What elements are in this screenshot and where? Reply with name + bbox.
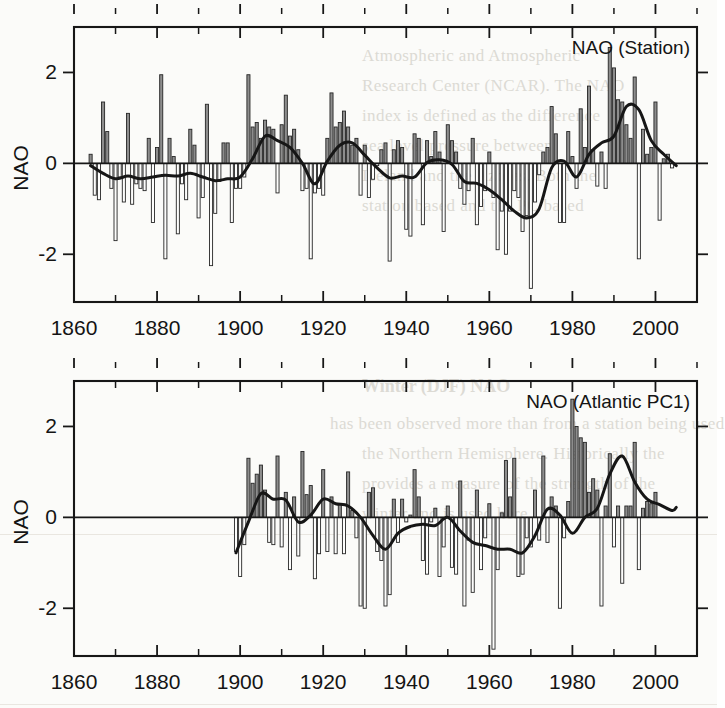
bar: [455, 152, 458, 163]
bar: [525, 517, 528, 537]
y-tick-label: -2: [38, 596, 57, 619]
bar: [546, 517, 549, 542]
bar: [608, 454, 611, 518]
bar: [255, 122, 258, 163]
bar: [654, 102, 657, 163]
bar: [438, 517, 441, 576]
bar: [413, 470, 416, 518]
bar: [409, 163, 412, 236]
bar: [517, 517, 520, 576]
bar: [392, 150, 395, 164]
bar: [646, 501, 649, 517]
bar-series: [89, 47, 674, 288]
bar: [151, 163, 154, 222]
bar: [272, 517, 275, 544]
bar: [268, 127, 271, 163]
bar: [413, 134, 416, 164]
bar: [106, 132, 109, 164]
bar: [197, 163, 200, 218]
bar: [351, 145, 354, 163]
bar: [247, 75, 250, 164]
bar: [293, 129, 296, 163]
bar: [102, 102, 105, 163]
bar: [575, 426, 578, 517]
bar: [276, 163, 279, 193]
bar: [359, 517, 362, 606]
y-tick-label: 2: [45, 60, 57, 83]
bar: [525, 163, 528, 215]
bar: [500, 163, 503, 211]
bar: [160, 75, 163, 164]
bar: [313, 517, 316, 578]
bar: [604, 163, 607, 188]
bar: [193, 145, 196, 163]
bar: [318, 517, 321, 553]
bar: [421, 163, 424, 224]
bar: [567, 501, 570, 517]
bar: [625, 506, 628, 517]
chart-title-nao-atlantic-pc1: NAO (Atlantic PC1): [526, 391, 690, 412]
bar: [567, 132, 570, 164]
bar: [334, 127, 337, 163]
bar: [538, 163, 541, 174]
bar: [272, 129, 275, 163]
bar: [463, 517, 466, 606]
bar: [122, 163, 125, 202]
bar: [326, 517, 329, 551]
bar: [442, 163, 445, 231]
y-axis-label-nao-station: NAO: [9, 145, 32, 191]
bar: [604, 506, 607, 517]
bar: [305, 495, 308, 518]
bar: [139, 163, 142, 188]
bar: [625, 125, 628, 164]
bar: [176, 163, 179, 233]
bar: [596, 163, 599, 186]
bar: [363, 517, 366, 608]
bar: [637, 517, 640, 569]
bar: [496, 163, 499, 249]
chart-svg-nao-atlantic-pc1: -20218601880190019201940196019802000 NAO…: [0, 354, 717, 708]
bar: [355, 138, 358, 163]
x-tick-label: 1980: [549, 316, 596, 339]
bar: [542, 152, 545, 163]
bar: [459, 481, 462, 517]
bar: [268, 517, 271, 542]
bar: [359, 163, 362, 195]
bar: [504, 163, 507, 254]
bar: [342, 517, 345, 553]
bar: [226, 143, 229, 163]
bar: [637, 163, 640, 258]
bar: [617, 506, 620, 517]
bar: [264, 120, 267, 163]
bar: [284, 95, 287, 163]
bar: [517, 163, 520, 197]
bar: [114, 163, 117, 240]
bar: [633, 77, 636, 163]
bar: [608, 47, 611, 163]
bar: [322, 470, 325, 518]
bar: [334, 517, 337, 553]
bar: [446, 125, 449, 164]
bar: [214, 163, 217, 213]
bar: [205, 104, 208, 163]
y-tick-label: 0: [45, 151, 57, 174]
bar: [600, 152, 603, 163]
bar: [384, 517, 387, 606]
x-tick-label: 2000: [632, 670, 679, 693]
bar: [571, 399, 574, 517]
bar: [450, 517, 453, 567]
bar: [405, 163, 408, 229]
bar: [513, 163, 516, 190]
bar: [529, 163, 532, 288]
bar: [446, 506, 449, 517]
bar: [135, 163, 138, 183]
chart-panel-nao-station: -20218601880190019201940196019802000 NAO…: [0, 0, 717, 354]
bar: [313, 163, 316, 193]
bar: [388, 517, 391, 594]
bar: [118, 163, 121, 177]
bar: [426, 141, 429, 164]
bar: [284, 492, 287, 517]
bar: [185, 163, 188, 199]
bar: [650, 147, 653, 163]
bar: [222, 143, 225, 163]
